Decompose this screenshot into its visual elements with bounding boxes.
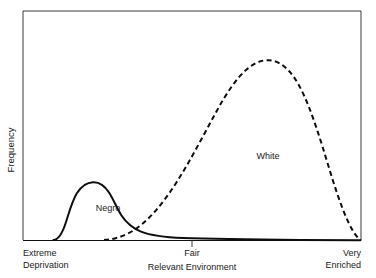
x-axis-label-very-line1: Very — [343, 248, 362, 258]
x-axis-label-extreme-line1: Extreme — [23, 248, 57, 258]
curve-label-white: White — [256, 151, 279, 161]
y-axis-label: Frequency — [5, 127, 16, 172]
x-axis-title: Relevant Environment — [148, 262, 237, 272]
chart-svg: Frequency Extreme Deprivation Fair Relev… — [0, 0, 376, 278]
x-axis-label-very-line2: Enriched — [325, 260, 361, 270]
x-axis-label-extreme-line2: Deprivation — [23, 260, 69, 270]
curve-label-negro: Negro — [96, 203, 121, 213]
x-axis-label-fair: Fair — [184, 248, 200, 258]
distribution-chart-figure: Frequency Extreme Deprivation Fair Relev… — [0, 0, 376, 278]
